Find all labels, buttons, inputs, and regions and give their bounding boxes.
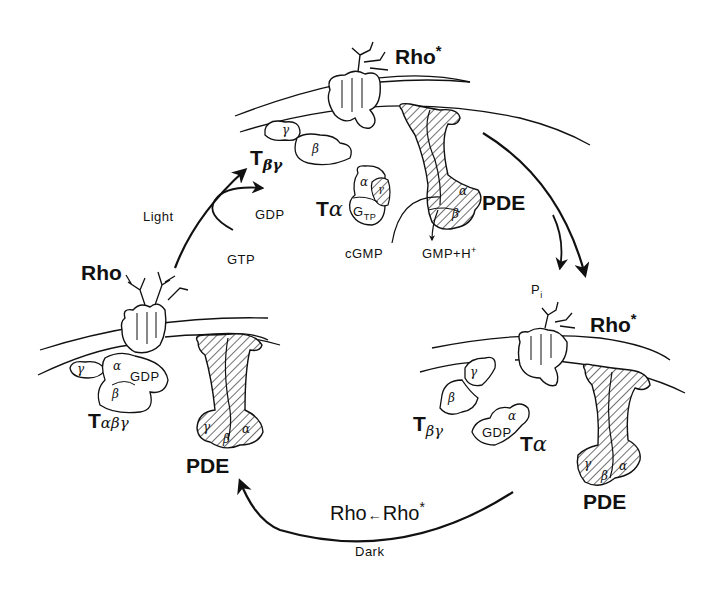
gamma-subunit-top: γ [282,124,289,136]
alpha-subunit-right: α [508,410,516,422]
gamma-subunit-left: γ [77,363,84,375]
light-label: Light [143,210,174,223]
gdp-out-label: GDP [255,208,285,221]
beta-subunit-top: β [312,143,319,155]
pde-label-left: PDE [186,455,229,476]
pde-beta-subunit-left: β [223,433,230,445]
pde-beta-subunit-top: β [452,208,459,220]
gdp-bound-label-right: GDP [482,426,512,439]
gamma-subunit-right: γ [470,366,477,378]
top-state [235,42,590,243]
pde-label-right: PDE [583,491,626,512]
t-beta-gamma-label-top: Tβγ [250,147,282,173]
alpha-subunit-left: α [113,360,121,372]
gmp-h-label: GMP+H+ [422,246,477,260]
rho-star-label-top: Rho* [395,44,442,67]
gtp-bound-label: GTP [353,205,376,222]
rho-receptor-left [121,272,188,353]
t-alpha-beta-gamma-label: Tαβγ [88,410,129,431]
pde-gamma-subunit-left: γ [203,421,210,433]
beta-subunit-right: β [448,392,455,404]
rho-label-left: Rho [81,262,122,283]
rho-star-receptor-top [328,42,388,128]
pi-release-arrow [553,215,561,268]
rho-star-receptor-right [519,302,576,386]
pde-alpha-subunit-right: α [619,460,627,472]
pi-label: Pi [531,283,543,300]
rho-reset-reaction: Rho←Rho* [330,500,425,523]
pde-label-top: PDE [482,192,525,213]
pde-top [400,104,481,230]
alpha-subunit-top: α [360,176,368,188]
pde-alpha-subunit-top: α [459,185,467,197]
pde-alpha-subunit-left: α [242,423,250,435]
t-alpha-label-top: Tα [316,198,343,220]
dark-label: Dark [355,545,384,558]
gtp-in-label: GTP [227,253,255,266]
t-alpha-label-right: Tα [520,433,547,455]
beta-subunit-left: β [112,388,119,400]
cgmp-label: cGMP [345,247,383,260]
gamma-pde-subunit-top: γ [378,184,384,194]
t-beta-gamma-label-right: Tβγ [413,413,443,439]
pde-gamma-subunit-right: γ [584,458,591,470]
pde-beta-subunit-right: β [601,470,608,482]
gdp-bound-label-left: GDP [130,370,160,383]
rho-star-label-right: Rho* [590,312,637,335]
right-state [420,302,685,485]
